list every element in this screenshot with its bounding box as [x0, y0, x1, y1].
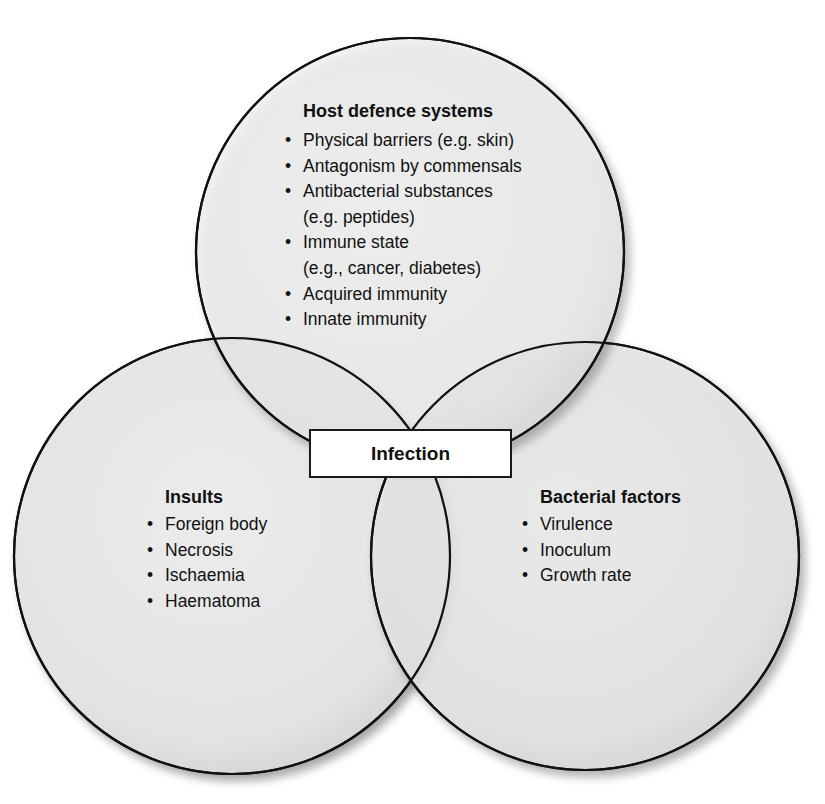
bacterial-factors-group: Bacterial factors •Virulence •Inoculum •… — [522, 486, 681, 589]
host-defence-item-continuation: (e.g., cancer, diabetes) — [285, 256, 522, 282]
infection-label-box: Infection — [309, 429, 512, 478]
host-defence-item: •Acquired immunity — [285, 282, 522, 308]
host-defence-item: •Antagonism by commensals — [285, 154, 522, 180]
bullet-icon: • — [522, 538, 528, 564]
host-defence-item: •Antibacterial substances — [285, 179, 522, 205]
bullet-icon: • — [285, 179, 291, 205]
bullet-icon: • — [522, 512, 528, 538]
host-defence-item: •Innate immunity — [285, 307, 522, 333]
insults-item: •Haematoma — [147, 589, 267, 615]
bullet-icon: • — [147, 512, 153, 538]
bullet-icon: • — [147, 563, 153, 589]
insults-item: •Ischaemia — [147, 563, 267, 589]
bullet-icon: • — [285, 282, 291, 308]
bacterial-factors-title: Bacterial factors — [540, 486, 681, 508]
insults-list: •Foreign body •Necrosis •Ischaemia •Haem… — [147, 512, 267, 614]
host-defence-item: •Immune state — [285, 230, 522, 256]
bullet-icon: • — [522, 563, 528, 589]
bullet-icon: • — [285, 154, 291, 180]
bullet-icon: • — [285, 230, 291, 256]
bullet-icon: • — [285, 128, 291, 154]
insults-title: Insults — [165, 486, 267, 508]
bacterial-factors-item: •Growth rate — [522, 563, 681, 589]
host-defence-list: •Physical barriers (e.g. skin) •Antagoni… — [285, 128, 522, 333]
host-defence-title: Host defence systems — [303, 100, 522, 122]
infection-label: Infection — [371, 443, 450, 465]
bacterial-factors-item: •Inoculum — [522, 538, 681, 564]
host-defence-item-continuation: (e.g. peptides) — [285, 205, 522, 231]
bacterial-factors-list: •Virulence •Inoculum •Growth rate — [522, 512, 681, 589]
host-defence-group: Host defence systems •Physical barriers … — [285, 100, 522, 333]
insults-item: •Necrosis — [147, 538, 267, 564]
bullet-icon: • — [147, 538, 153, 564]
bullet-icon: • — [147, 589, 153, 615]
bacterial-factors-item: •Virulence — [522, 512, 681, 538]
insults-group: Insults •Foreign body •Necrosis •Ischaem… — [147, 486, 267, 614]
bullet-icon: • — [285, 307, 291, 333]
insults-item: •Foreign body — [147, 512, 267, 538]
host-defence-item: •Physical barriers (e.g. skin) — [285, 128, 522, 154]
